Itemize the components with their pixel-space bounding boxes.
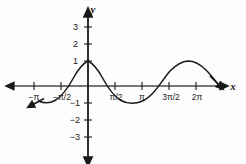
x-tick-label-two-pi: 2π — [192, 92, 203, 102]
x-axis-label: x — [229, 80, 236, 92]
y-tick-label-1: 1 — [73, 56, 78, 66]
y-tick-label-2: 2 — [73, 39, 78, 49]
y-axis-label: y — [89, 3, 96, 15]
x-tick-label-neg-pi: −π — [29, 92, 40, 102]
x-tick-label-pi: π — [139, 92, 145, 102]
x-tick-label-three-pi-over-2: 3π/2 — [162, 92, 180, 102]
y-tick-label-3: 3 — [73, 22, 78, 32]
figure-background — [0, 0, 246, 164]
x-tick-label-neg-pi-over-2: −π/2 — [53, 92, 71, 102]
x-tick-label-pi-over-2: π/2 — [110, 92, 123, 102]
coordinate-plane-svg: x y −π −π/2 π/2 π 3π/2 2π 3 2 1 −1 −2 −3 — [0, 0, 246, 164]
y-tick-label-neg-3: −3 — [70, 132, 80, 142]
y-tick-label-neg-2: −2 — [70, 115, 80, 125]
cosine-graph-figure: x y −π −π/2 π/2 π 3π/2 2π 3 2 1 −1 −2 −3 — [0, 0, 246, 164]
y-tick-label-neg-1: −1 — [70, 98, 80, 108]
